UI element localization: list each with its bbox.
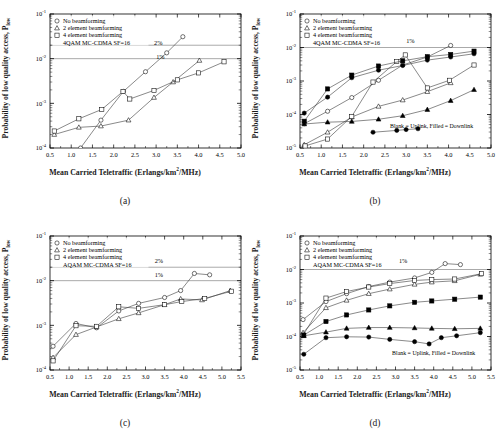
data-point-square-filled: [425, 55, 429, 59]
data-point-triangle-filled: [452, 326, 457, 330]
y-tick-label: 10-3: [286, 76, 297, 84]
data-point-square-filled: [350, 73, 354, 77]
data-point-circle-open: [350, 95, 354, 99]
annotation-1: 1%: [155, 271, 164, 278]
data-point-square-open: [425, 86, 429, 90]
data-point-square-filled: [453, 297, 457, 301]
y-tick-label: 10-1: [36, 9, 47, 17]
x-tick-label: 0.5: [46, 151, 54, 158]
panel-a-caption: (a): [0, 196, 250, 206]
legend-label: No beamforming: [313, 17, 355, 24]
x-tick-label: 2.0: [360, 151, 368, 158]
data-point-square-open: [77, 117, 81, 121]
data-point-square-open: [180, 299, 184, 303]
data-point-circle-filled: [439, 336, 443, 340]
x-tick-label: 1.5: [84, 373, 92, 380]
data-point-square-open: [52, 129, 56, 133]
x-tick-label: 1.5: [338, 151, 346, 158]
legend-label: 4 element beamforming: [313, 31, 372, 38]
x-tick-label: 1.5: [88, 151, 96, 158]
data-point-circle-open: [208, 273, 212, 277]
data-point-square-open: [447, 78, 451, 82]
data-point-triangle-filled: [478, 326, 483, 330]
data-layer: [52, 35, 226, 150]
x-tick-label: 2.5: [381, 151, 389, 158]
x-tick-label: 2.0: [103, 373, 111, 380]
legend-label: 2 element beamforming: [63, 24, 122, 31]
annotation-1: Blank = Uplink, Filled = Downlink: [392, 350, 475, 356]
x-tick-label: 1.5: [334, 373, 342, 380]
panel-c: 0.51.01.52.02.53.03.54.04.55.05.510-410-…: [0, 222, 250, 444]
data-point-square-open: [453, 277, 457, 281]
data-point-circle-filled: [427, 342, 431, 346]
x-tick-label: 3.5: [423, 151, 431, 158]
x-tick-label: 1.0: [67, 151, 75, 158]
data-point-triangle-open: [325, 130, 330, 134]
data-point-square-open: [371, 80, 375, 84]
legend-label: 2 element beamforming: [63, 246, 122, 253]
data-point-square-open: [472, 63, 476, 67]
annotation-0: 2%: [154, 39, 163, 46]
data-point-square-open: [137, 306, 141, 310]
y-axis-label: Probability of low quality access, Plow: [249, 222, 263, 377]
y-tick-label: 10-2: [36, 276, 47, 284]
x-tick-label: 4.0: [180, 373, 188, 380]
data-point-circle-open: [137, 301, 141, 305]
panel-d-caption: (d): [250, 418, 500, 428]
data-point-circle-open: [179, 288, 183, 292]
data-point-square-open: [222, 60, 226, 64]
data-point-triangle-filled: [472, 87, 477, 91]
panel-b: 0.51.01.52.02.53.03.54.04.55.010-510-410…: [250, 0, 500, 222]
data-point-circle-filled: [376, 68, 380, 72]
data-point-square-open: [203, 296, 207, 300]
y-tick-label: 10-1: [286, 9, 297, 17]
annotation-0: 1%: [399, 257, 408, 264]
x-tick-label: 3.0: [402, 151, 410, 158]
y-axis-label: Probability of low quality access, Plow: [0, 0, 13, 155]
x-tick-label: 3.0: [392, 373, 400, 380]
data-point-circle-filled: [302, 111, 306, 115]
data-point-square-open: [152, 88, 156, 92]
data-point-square-filled: [430, 299, 434, 303]
data-point-square-open: [430, 277, 434, 281]
x-tick-label: 3.5: [173, 151, 181, 158]
data-point-circle-open: [301, 317, 305, 321]
annotation-0: 1%: [406, 37, 415, 44]
x-tick-label: 0.5: [296, 151, 304, 158]
data-point-square-open: [413, 278, 417, 282]
data-point-circle-filled: [345, 335, 349, 339]
figure-four-panel: 0.51.01.52.02.53.03.54.04.55.010-410-310…: [0, 0, 500, 445]
series-line-3: [304, 90, 474, 124]
y-tick-label: 10-2: [36, 54, 47, 62]
x-tick-label: 2.0: [353, 373, 361, 380]
y-tick-label: 10-2: [286, 43, 297, 51]
legend: No beamforming2 element beamforming4 ele…: [303, 238, 399, 268]
x-tick-label: 4.5: [199, 373, 207, 380]
x-tick-label: 5.0: [468, 373, 476, 380]
x-axis-label: Mean Carried Teletraffic (Erlangs/km2/MH…: [250, 388, 500, 399]
data-point-square-open: [479, 272, 483, 276]
data-point-circle-open: [99, 118, 103, 122]
y-tick-label: 10-3: [36, 99, 47, 107]
x-axis-label: Mean Carried Teletraffic (Erlangs/km2/MH…: [0, 166, 250, 177]
x-tick-label: 4.0: [430, 373, 438, 380]
data-layer: [301, 262, 484, 357]
data-point-triangle-filled: [325, 120, 330, 124]
data-point-circle-open: [117, 309, 121, 313]
legend-note: 4QAM MC-CDMA SF=16: [313, 39, 380, 46]
data-point-square-filled: [401, 59, 405, 63]
legend-label: 2 element beamforming: [313, 24, 372, 31]
legend: No beamforming2 element beamforming4 ele…: [53, 16, 149, 46]
x-axis-label: Mean Carried Teletraffic (Erlangs/km2/MH…: [0, 388, 250, 399]
legend-note: AQAM MC-CDMA SF=16: [63, 261, 131, 268]
data-point-square-filled: [325, 87, 329, 91]
panel-d: 0.51.01.52.02.53.03.54.04.55.05.510-510-…: [250, 222, 500, 444]
data-point-circle-open: [165, 51, 169, 55]
x-tick-label: 3.0: [152, 151, 160, 158]
legend-marker-square-open: [305, 33, 309, 37]
data-point-circle-open: [163, 295, 167, 299]
data-point-square-open: [117, 305, 121, 309]
data-point-square-filled: [449, 52, 453, 56]
legend-marker-circle-open: [55, 19, 59, 23]
legend-marker-square-open: [55, 33, 59, 37]
